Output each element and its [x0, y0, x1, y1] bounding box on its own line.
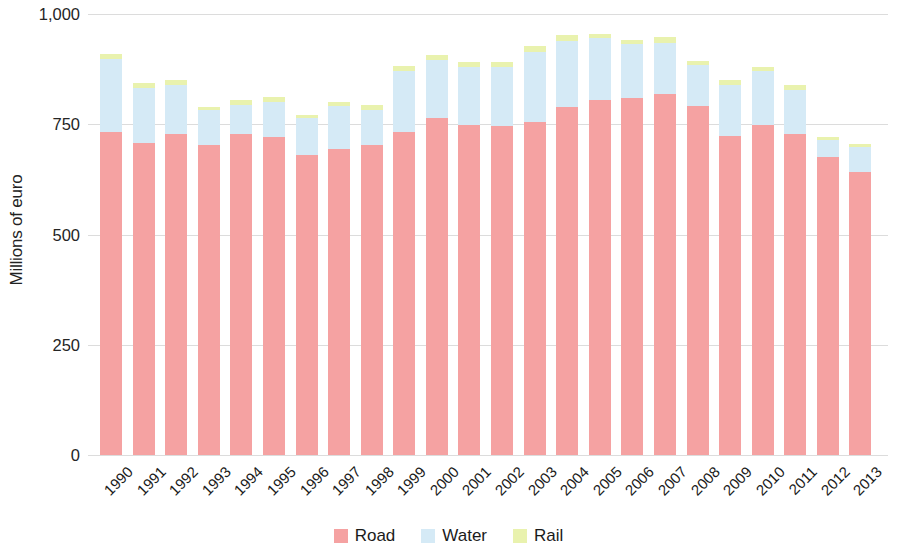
bar-segment-road[interactable]: [719, 136, 741, 455]
bar-segment-water[interactable]: [621, 44, 643, 98]
stacked-bar-chart: Millions of euro 02505007501,000 1990199…: [0, 0, 897, 552]
bar-segment-road[interactable]: [849, 172, 871, 455]
bar-segment-water[interactable]: [524, 52, 546, 123]
bar-segment-road[interactable]: [491, 126, 513, 455]
bar-segment-road[interactable]: [426, 118, 448, 455]
bar-segment-rail[interactable]: [296, 115, 318, 118]
bar-segment-road[interactable]: [165, 134, 187, 455]
bar-segment-road[interactable]: [687, 106, 709, 455]
bar-segment-rail[interactable]: [621, 40, 643, 44]
bar-segment-rail[interactable]: [426, 55, 448, 59]
bar-segment-rail[interactable]: [752, 67, 774, 71]
bar-segment-road[interactable]: [784, 134, 806, 455]
bar-segment-water[interactable]: [784, 90, 806, 134]
bar-segment-rail[interactable]: [556, 35, 578, 41]
plot-area: [88, 14, 888, 455]
bar-segment-rail[interactable]: [524, 46, 546, 51]
bar-segment-rail[interactable]: [719, 80, 741, 85]
bar-segment-rail[interactable]: [491, 62, 513, 67]
bar-segment-rail[interactable]: [198, 107, 220, 111]
bar-segment-road[interactable]: [458, 125, 480, 455]
bar-segment-road[interactable]: [198, 145, 220, 455]
bar-segment-water[interactable]: [491, 67, 513, 126]
bar-segment-road[interactable]: [100, 132, 122, 455]
bar-segment-rail[interactable]: [393, 66, 415, 71]
bar-segment-rail[interactable]: [133, 83, 155, 88]
legend-item-water[interactable]: Water: [421, 527, 487, 544]
bar-segment-road[interactable]: [230, 134, 252, 455]
bar-segment-road[interactable]: [361, 145, 383, 455]
legend-item-road[interactable]: Road: [334, 527, 396, 544]
bar-segment-water[interactable]: [393, 71, 415, 132]
bar-segment-water[interactable]: [556, 41, 578, 107]
bar-segment-water[interactable]: [458, 67, 480, 125]
bar-segment-road[interactable]: [621, 98, 643, 455]
chart-legend: RoadWaterRail: [0, 527, 897, 544]
bar-segment-water[interactable]: [654, 43, 676, 95]
legend-label: Water: [442, 527, 487, 544]
bar-series-container: [88, 14, 888, 455]
bar-segment-road[interactable]: [556, 107, 578, 455]
legend-swatch-icon: [513, 529, 527, 543]
bar-segment-water[interactable]: [817, 140, 839, 157]
bar-segment-water[interactable]: [719, 85, 741, 136]
bar-segment-water[interactable]: [328, 106, 350, 149]
legend-swatch-icon: [421, 529, 435, 543]
bar-segment-road[interactable]: [393, 132, 415, 455]
bar-segment-road[interactable]: [263, 137, 285, 455]
bar-segment-rail[interactable]: [654, 37, 676, 43]
legend-swatch-icon: [334, 529, 348, 543]
y-axis-tick-label: 750: [18, 115, 80, 134]
bar-segment-rail[interactable]: [165, 80, 187, 84]
y-axis-tick-label: 0: [18, 446, 80, 465]
bar-segment-rail[interactable]: [230, 100, 252, 105]
y-axis-tick-label: 250: [18, 335, 80, 354]
bar-segment-road[interactable]: [654, 94, 676, 455]
bar-segment-rail[interactable]: [687, 61, 709, 65]
bar-segment-road[interactable]: [752, 125, 774, 455]
legend-label: Rail: [534, 527, 563, 544]
y-axis-tick-label: 1,000: [18, 5, 80, 24]
bar-segment-rail[interactable]: [784, 85, 806, 90]
bar-segment-water[interactable]: [426, 60, 448, 118]
bar-segment-rail[interactable]: [589, 34, 611, 38]
y-axis-tick-label: 500: [18, 225, 80, 244]
bar-segment-water[interactable]: [849, 147, 871, 172]
legend-item-rail[interactable]: Rail: [513, 527, 563, 544]
bar-segment-rail[interactable]: [361, 105, 383, 110]
bar-segment-road[interactable]: [589, 100, 611, 455]
x-axis-tick-labels: 1990199119921993199419951996199719981999…: [88, 455, 888, 515]
bar-segment-water[interactable]: [198, 110, 220, 144]
bar-segment-water[interactable]: [296, 118, 318, 155]
bar-segment-rail[interactable]: [458, 62, 480, 67]
bar-segment-water[interactable]: [752, 71, 774, 125]
bar-segment-road[interactable]: [296, 155, 318, 455]
legend-label: Road: [355, 527, 396, 544]
bar-segment-water[interactable]: [165, 85, 187, 135]
bar-segment-road[interactable]: [133, 143, 155, 455]
bar-segment-rail[interactable]: [100, 54, 122, 60]
bar-segment-water[interactable]: [100, 59, 122, 131]
bar-segment-rail[interactable]: [263, 97, 285, 101]
bar-segment-water[interactable]: [589, 38, 611, 100]
bar-segment-water[interactable]: [263, 102, 285, 137]
bar-segment-road[interactable]: [524, 122, 546, 455]
y-axis-tick-labels: 02505007501,000: [18, 0, 80, 460]
bar-segment-water[interactable]: [687, 65, 709, 106]
bar-segment-rail[interactable]: [328, 102, 350, 106]
bar-segment-road[interactable]: [817, 157, 839, 455]
bar-segment-water[interactable]: [230, 105, 252, 134]
bar-segment-rail[interactable]: [817, 137, 839, 141]
bar-segment-water[interactable]: [133, 88, 155, 143]
bar-segment-rail[interactable]: [849, 144, 871, 148]
bar-segment-water[interactable]: [361, 110, 383, 145]
bar-segment-road[interactable]: [328, 149, 350, 455]
